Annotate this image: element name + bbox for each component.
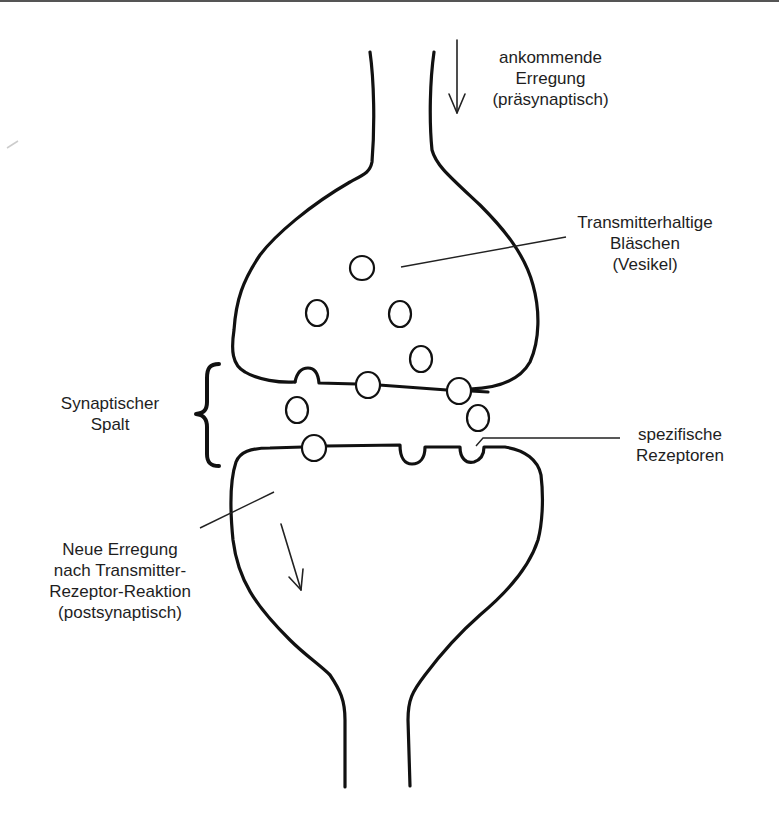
vesicles-line-3: (Vesikel) bbox=[570, 254, 720, 275]
arrow-down-icon bbox=[449, 40, 465, 113]
vesicle bbox=[410, 346, 432, 372]
receptors-line-1: spezifische bbox=[625, 424, 735, 445]
new-excitation-line-4: (postsynaptisch) bbox=[30, 602, 210, 623]
postsynaptic-top-membrane bbox=[325, 445, 542, 786]
vesicle bbox=[389, 301, 411, 327]
new-excitation-label: Neue Erregung nach Transmitter- Rezeptor… bbox=[30, 539, 210, 623]
synaptic-cleft-label: Synaptischer Spalt bbox=[45, 393, 175, 435]
arrow-down-right-icon bbox=[281, 524, 303, 590]
vesicle-pointer-line bbox=[401, 237, 566, 267]
vesicle-fusing bbox=[447, 378, 471, 404]
vesicle bbox=[306, 300, 328, 326]
curly-brace-icon bbox=[196, 364, 219, 466]
vesicle-fusing bbox=[356, 372, 380, 398]
vesicle bbox=[350, 256, 374, 280]
incoming-line-1: ankommende bbox=[478, 47, 623, 68]
incoming-excitation-label: ankommende Erregung (präsynaptisch) bbox=[478, 47, 623, 110]
receptors-line-2: Rezeptoren bbox=[625, 445, 735, 466]
presynaptic-left-membrane bbox=[233, 52, 374, 382]
new-excitation-line-1: Neue Erregung bbox=[30, 539, 210, 560]
vesicle-bound-receptor bbox=[302, 435, 326, 461]
new-excitation-line-3: Rezeptor-Reaktion bbox=[30, 581, 210, 602]
new-excitation-line-2: nach Transmitter- bbox=[30, 560, 210, 581]
incoming-line-3: (präsynaptisch) bbox=[478, 89, 623, 110]
cleft-line-1: Synaptischer bbox=[45, 393, 175, 414]
vesicles-line-2: Bläschen bbox=[570, 233, 720, 254]
stray-mark bbox=[7, 141, 18, 148]
vesicle-in-cleft bbox=[467, 405, 489, 431]
vesicle-in-cleft bbox=[286, 397, 308, 423]
excitation-pointer-line bbox=[200, 492, 274, 528]
vesicles-label: Transmitterhaltige Bläschen (Vesikel) bbox=[570, 212, 720, 275]
cleft-line-2: Spalt bbox=[45, 414, 175, 435]
vesicles-line-1: Transmitterhaltige bbox=[570, 212, 720, 233]
postsynaptic-membrane bbox=[231, 447, 345, 787]
incoming-line-2: Erregung bbox=[478, 68, 623, 89]
receptor-pointer-line bbox=[476, 438, 620, 446]
receptors-label: spezifische Rezeptoren bbox=[625, 424, 735, 466]
